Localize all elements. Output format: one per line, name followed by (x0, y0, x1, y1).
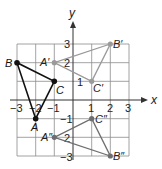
y-tick: 1 (77, 76, 83, 88)
label-c-prime: C′ (93, 82, 104, 94)
x-tick: 1 (88, 102, 94, 114)
label-a-prime: A′ (39, 56, 50, 68)
label-c: C (56, 84, 64, 96)
x-axis-label: x (150, 93, 158, 107)
label-a-double-prime: A″ (40, 131, 53, 143)
label-a: A (30, 121, 38, 133)
y-tick: 3 (64, 38, 70, 50)
x-tick: 3 (125, 102, 131, 114)
x-axis-arrow-icon (141, 97, 148, 103)
x-tick: −3 (10, 102, 23, 114)
y-tick: −3 (60, 151, 73, 163)
y-axis-label: y (68, 6, 76, 20)
triangle-abc: A B C (5, 57, 64, 133)
axes (10, 25, 144, 160)
label-b-prime: B′ (113, 38, 123, 50)
point-a-prime (52, 60, 57, 65)
label-c-double-prime: C″ (95, 113, 108, 125)
point-c-double-prime (89, 116, 94, 121)
y-tick: −1 (60, 113, 73, 125)
x-tick: −1 (47, 102, 60, 114)
x-tick: 2 (107, 102, 113, 114)
label-b: B (5, 57, 12, 69)
point-b (14, 60, 20, 66)
point-a-double-prime (52, 135, 57, 140)
y-axis-arrow-icon (70, 21, 76, 28)
coordinate-plane: x y −3 −2 −1 1 2 3 3 2 1 −1 2 −3 A B C A… (0, 0, 162, 169)
label-b-double-prime: B″ (113, 150, 125, 162)
